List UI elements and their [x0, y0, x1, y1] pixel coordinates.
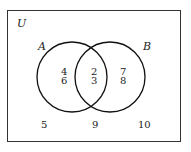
universe-label: U	[17, 17, 27, 30]
set-b-label: B	[142, 40, 151, 53]
outside-element: 10	[138, 119, 151, 130]
a-only-element: 6	[61, 75, 67, 86]
b-only-element: 8	[120, 75, 126, 86]
outside-element: 5	[41, 119, 47, 130]
set-a-label: A	[37, 40, 46, 53]
set-b-circle	[75, 42, 145, 112]
venn-diagram: U A B 4 6 2 3 7 8 5 9 10	[0, 0, 191, 152]
outside-element: 9	[92, 119, 98, 130]
intersection-element: 3	[91, 75, 97, 86]
